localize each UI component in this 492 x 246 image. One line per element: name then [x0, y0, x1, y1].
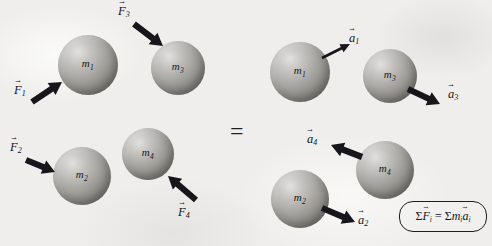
right-acceleration-4-arrow: [331, 143, 363, 160]
left-force-2-arrow: [25, 157, 55, 174]
left-force-1-arrow: [30, 82, 62, 105]
left-force-4-arrow: [168, 176, 198, 202]
physics-diagram-figure: m1m3m2m4m1m3m4m2 F1F3F2F4a1a3a4a2 = ΣFi …: [0, 0, 492, 246]
right-acceleration-3-arrow: [407, 86, 440, 105]
right-acceleration-1-arrow: [321, 44, 350, 59]
equation-box: ΣFi = Σmiai: [399, 201, 487, 232]
equals-sign: =: [230, 118, 244, 145]
left-force-3-arrow: [132, 22, 163, 46]
equation-text: ΣFi = Σmiai: [415, 209, 470, 224]
right-acceleration-2-arrow: [321, 205, 355, 224]
